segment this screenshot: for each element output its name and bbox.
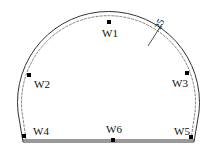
point-w1-label: W1 <box>102 27 118 39</box>
point-w6-marker <box>111 138 115 142</box>
point-w1-marker <box>107 20 111 24</box>
point-w4-marker <box>22 134 26 138</box>
tunnel-diagram: 25 W1 W2 W3 W4 W5 W6 <box>0 0 216 156</box>
point-w2-marker <box>27 73 31 77</box>
point-w3-marker <box>185 71 189 75</box>
point-w3-label: W3 <box>172 77 188 89</box>
point-w6-label: W6 <box>106 123 122 135</box>
point-w4-label: W4 <box>33 125 49 137</box>
point-w5-label: W5 <box>174 125 190 137</box>
point-w2-label: W2 <box>34 78 50 90</box>
